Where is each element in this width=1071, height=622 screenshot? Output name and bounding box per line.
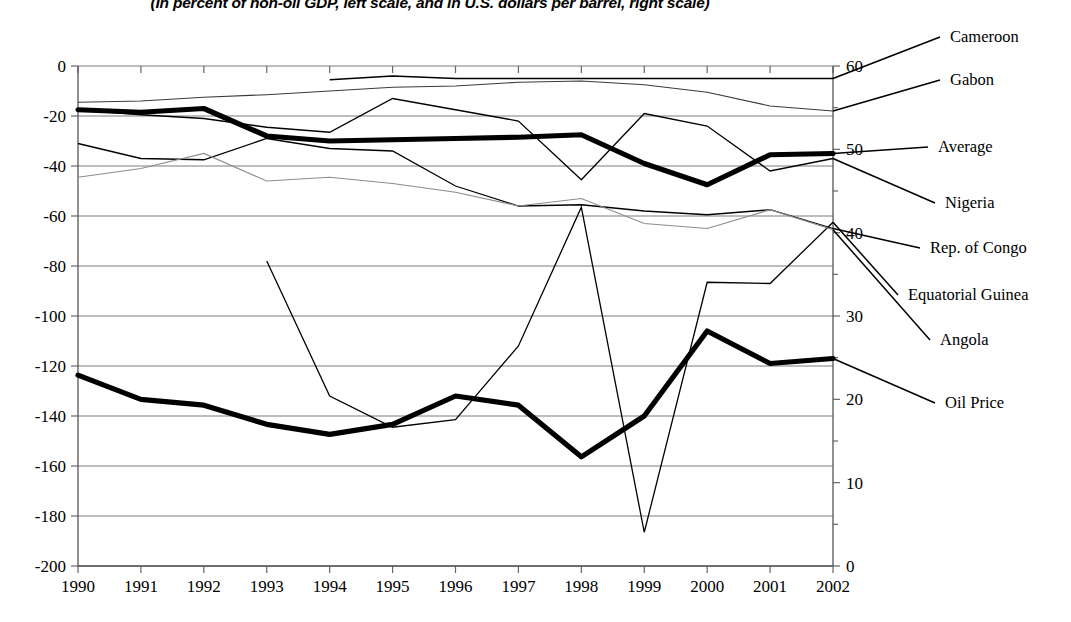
x-tick-label: 1997	[501, 577, 536, 596]
x-tick-label: 2001	[753, 577, 787, 596]
series-line-equatorial-guinea	[267, 207, 833, 532]
left-tick-label: -100	[35, 307, 66, 326]
left-tick-label: -80	[43, 257, 66, 276]
chart-root: (In percent of non-oil GDP, left scale, …	[0, 0, 1071, 622]
right-axis-tick-labels: 6050403020100	[846, 57, 863, 576]
x-axis-tick-labels: 1990199119921993199419951996199719981999…	[61, 577, 850, 596]
legend-label-rep-of-congo: Rep. of Congo	[930, 238, 1027, 257]
x-tick-label: 1992	[187, 577, 221, 596]
series-line-cameroon	[330, 76, 833, 80]
series-line-gabon	[78, 81, 833, 111]
left-tick-label: -120	[35, 357, 66, 376]
legend-label-oil-price: Oil Price	[945, 393, 1004, 412]
x-tick-label: 2002	[816, 577, 850, 596]
x-tick-label: 1996	[439, 577, 473, 596]
right-tick-label: 40	[846, 224, 863, 243]
series-line-rep-of-congo	[78, 139, 833, 229]
series-line-average	[78, 109, 833, 185]
x-tick-label: 2000	[690, 577, 724, 596]
left-tick-label: -140	[35, 407, 66, 426]
right-tick-label: 50	[846, 140, 863, 159]
left-tick-label: -20	[43, 107, 66, 126]
x-tick-label: 1990	[61, 577, 95, 596]
chart-canvas: 0-20-40-60-80-100-120-140-160-180-200 60…	[0, 0, 1071, 622]
x-tick-label: 1999	[627, 577, 661, 596]
data-series-layer	[78, 76, 833, 532]
x-tick-label: 1994	[313, 577, 348, 596]
leader-line-gabon	[833, 80, 940, 111]
right-tick-label: 30	[846, 307, 863, 326]
x-tick-label: 1991	[124, 577, 158, 596]
left-tick-label: -200	[35, 557, 66, 576]
legend-label-gabon: Gabon	[950, 70, 994, 89]
x-tick-label: 1995	[376, 577, 410, 596]
left-tick-label: 0	[58, 57, 67, 76]
x-tick-label: 1993	[250, 577, 284, 596]
leader-lines	[833, 37, 940, 403]
left-tick-label: -60	[43, 207, 66, 226]
left-tick-label: -160	[35, 457, 66, 476]
series-line-angola	[78, 154, 833, 230]
x-tick-label: 1998	[564, 577, 598, 596]
left-tick-label: -40	[43, 157, 66, 176]
leader-line-equatorial-guinea	[833, 222, 898, 295]
legend-label-angola: Angola	[940, 330, 989, 349]
legend-label-equatorial-guinea: Equatorial Guinea	[908, 285, 1029, 304]
right-tick-label: 60	[846, 57, 863, 76]
right-tick-label: 20	[846, 390, 863, 409]
right-tick-label: 0	[846, 557, 855, 576]
series-line-oil-price	[78, 331, 833, 457]
left-tick-label: -180	[35, 507, 66, 526]
tick-marks	[71, 66, 840, 573]
legend-label-cameroon: Cameroon	[950, 27, 1019, 46]
leader-line-nigeria	[833, 159, 935, 204]
right-tick-label: 10	[846, 474, 863, 493]
left-axis-tick-labels: 0-20-40-60-80-100-120-140-160-180-200	[35, 57, 66, 576]
legend-label-nigeria: Nigeria	[945, 193, 995, 212]
legend-label-average: Average	[938, 137, 993, 156]
